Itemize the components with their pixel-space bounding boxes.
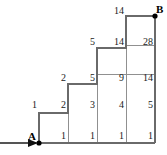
cell-value: 5	[90, 73, 95, 83]
point-label-a: A	[28, 131, 36, 142]
cell-value: 14	[114, 6, 124, 16]
grid-lines	[68, 16, 155, 143]
point-label-b: B	[156, 4, 163, 15]
cell-value: 1	[148, 131, 153, 141]
cell-value: 3	[90, 100, 95, 110]
cell-value: 5	[148, 100, 153, 110]
cell-value: 4	[119, 100, 124, 110]
cell-value: 14	[114, 37, 124, 47]
point-dot-A	[36, 140, 41, 145]
cell-value: 1	[90, 131, 95, 141]
cell-value: 14	[143, 73, 153, 83]
cell-value: 2	[61, 100, 66, 110]
cell-value: 1	[32, 100, 37, 110]
cell-value: 28	[143, 37, 153, 47]
cell-value: 5	[90, 37, 95, 47]
lattice-path-figure: 1 2 3 4 5 1 1 1 1 2 5 9 14 5 14 28 14 A …	[0, 0, 167, 155]
cell-value: 1	[119, 131, 124, 141]
cell-value: 9	[119, 73, 124, 83]
cell-value: 1	[61, 131, 66, 141]
lattice-grid-svg	[0, 0, 167, 155]
cell-value: 2	[61, 73, 66, 83]
